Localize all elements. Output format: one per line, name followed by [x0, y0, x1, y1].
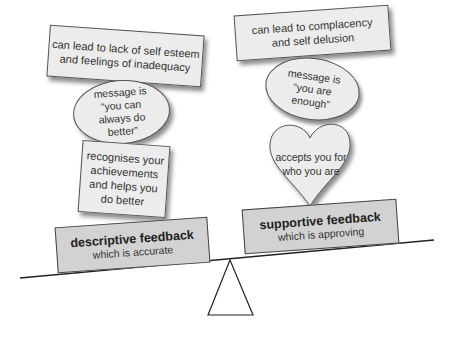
left-lower-note: recognises your achievements and helps y… [78, 140, 171, 218]
left-top-note: can lead to lack of self esteem and feel… [46, 25, 204, 88]
fulcrum-triangle [208, 260, 253, 315]
heart-text: accepts you for who you are [272, 150, 350, 178]
